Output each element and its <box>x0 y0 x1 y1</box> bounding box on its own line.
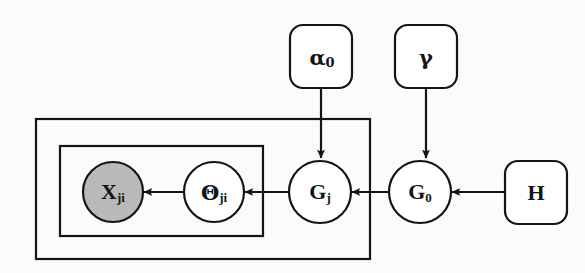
node-g-j[interactable] <box>289 161 351 223</box>
node-gamma[interactable] <box>395 25 457 88</box>
graphical-model-diagram: Xji Θji Gj G0 α0 γ H <box>0 0 585 273</box>
node-theta-ji[interactable] <box>184 162 244 222</box>
node-h[interactable] <box>505 161 567 224</box>
diagram-canvas <box>0 0 585 273</box>
node-alpha-0[interactable] <box>290 25 352 88</box>
node-g-0[interactable] <box>389 161 451 223</box>
node-x-ji[interactable] <box>83 162 143 222</box>
